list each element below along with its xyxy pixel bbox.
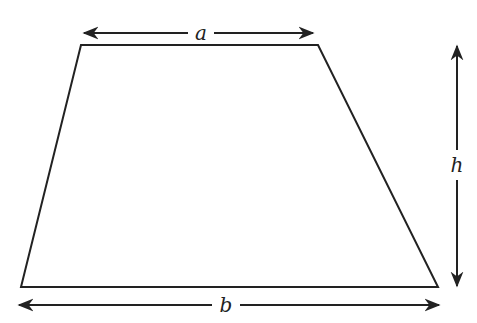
label-b: b [220,293,233,317]
label-a: a [195,21,207,45]
height-dimension: h [451,46,464,286]
top-base-dimension: a [84,21,313,45]
trapezoid-shape [21,45,438,287]
bottom-base-dimension: b [19,293,439,317]
label-h: h [451,153,464,177]
trapezoid-diagram: a h b [0,0,477,323]
